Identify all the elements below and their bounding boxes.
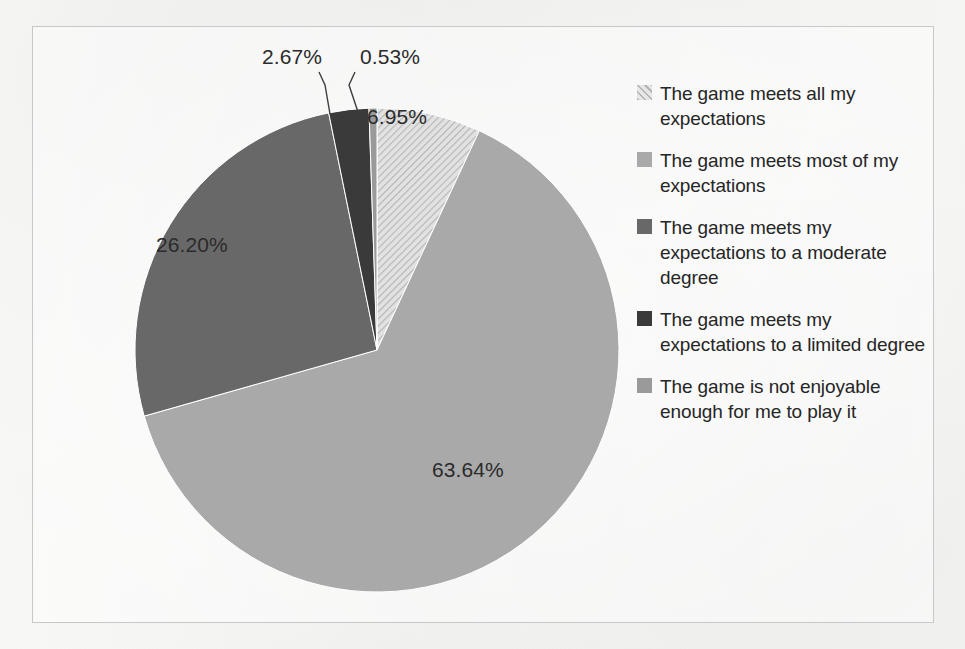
legend-swatch-icon [637,219,652,234]
legend-item-label: The game meets my expectations to a mode… [660,215,927,290]
pie-chart-plot-area: 6.95%63.64%26.20%2.67%0.53% [33,27,673,624]
legend-item: The game is not enjoyable enough for me … [637,374,927,424]
legend-item-label: The game meets most of my expectations [660,148,927,198]
pie-slice-value-label: 63.64% [432,458,504,482]
pie-slice-value-label: 26.20% [156,233,228,257]
pie-label-leader-line [319,72,330,114]
pie-slice-value-label: 0.53% [360,45,420,69]
legend-item-label: The game meets my expectations to a limi… [660,307,927,357]
pie-leader-lines-group [319,72,358,114]
legend-item-label: The game meets all my expectations [660,81,927,131]
pie-slices-group [135,108,619,592]
legend-swatch-icon [637,85,652,100]
chart-legend: The game meets all my expectationsThe ga… [637,81,927,441]
chart-screenshot: 6.95%63.64%26.20%2.67%0.53% The game mee… [0,0,965,649]
pie-label-leader-line [349,72,358,112]
legend-item: The game meets my expectations to a mode… [637,215,927,290]
legend-swatch-icon [637,378,652,393]
legend-item: The game meets all my expectations [637,81,927,131]
pie-slice-value-label: 6.95% [367,105,427,129]
legend-swatch-icon [637,311,652,326]
legend-swatch-icon [637,152,652,167]
legend-item: The game meets my expectations to a limi… [637,307,927,357]
chart-frame: 6.95%63.64%26.20%2.67%0.53% The game mee… [32,26,934,623]
legend-item: The game meets most of my expectations [637,148,927,198]
legend-item-label: The game is not enjoyable enough for me … [660,374,927,424]
pie-slice-value-label: 2.67% [262,45,322,69]
pie-chart-svg [33,27,673,624]
